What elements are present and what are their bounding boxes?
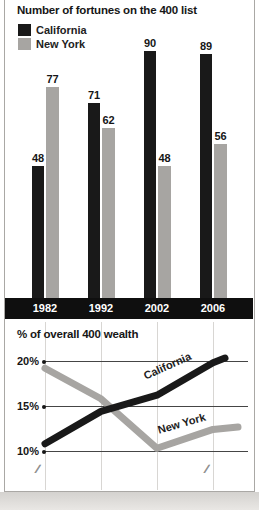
- california-legend-swatch-icon: [18, 24, 31, 36]
- bar-value-new_york-1982: 77: [41, 73, 65, 85]
- bar-new_york-2006: [214, 144, 227, 298]
- new-york-legend-label: New York: [36, 38, 85, 50]
- gridline-15pct: [44, 406, 248, 407]
- bar-california-2002: [144, 51, 156, 298]
- gridline-20pct: [44, 361, 248, 362]
- y-tick-dot-20: [42, 360, 46, 364]
- year-label-1982: 1982: [25, 298, 65, 319]
- fortune-400-infographic: Number of fortunes on the 400 list Calif…: [0, 0, 259, 510]
- new-york-legend-swatch-icon: [18, 38, 31, 50]
- year-label-2006: 2006: [193, 298, 233, 319]
- y-tick-20: 20%: [8, 355, 39, 367]
- year-label-1992: 1992: [81, 298, 121, 319]
- bar-new_york-2002: [158, 166, 171, 298]
- y-tick-10: 10%: [8, 445, 39, 457]
- bar-value-california-2002: 90: [138, 37, 162, 49]
- bar-new_york-1982: [46, 87, 59, 298]
- y-tick-dot-15: [42, 405, 46, 409]
- bar-value-new_york-2006: 56: [209, 130, 233, 142]
- bar-california-1992: [88, 103, 100, 298]
- page-edge: [0, 492, 259, 510]
- california-legend-label: California: [36, 24, 87, 36]
- bar-value-new_york-2002: 48: [153, 152, 177, 164]
- bar-new_york-1992: [102, 128, 115, 298]
- bar-chart-title: Number of fortunes on the 400 list: [17, 4, 197, 16]
- bar-value-california-2006: 89: [194, 40, 218, 52]
- year-label-2002: 2002: [137, 298, 177, 319]
- bar-value-california-1992: 71: [82, 89, 106, 101]
- y-tick-15: 15%: [8, 400, 39, 412]
- bar-california-1982: [32, 166, 44, 298]
- bar-value-new_york-1992: 62: [97, 114, 121, 126]
- y-tick-dot-10: [42, 450, 46, 454]
- bar-california-2006: [200, 54, 212, 298]
- gridline-10pct: [44, 451, 248, 452]
- line-chart-title: % of overall 400 wealth: [17, 328, 138, 340]
- x-axis-band: 1982199220022006: [5, 298, 253, 319]
